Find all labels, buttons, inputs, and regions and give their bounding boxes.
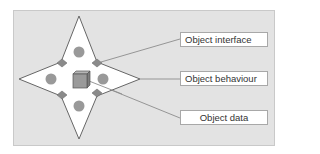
data-circle-bottom	[74, 101, 85, 112]
connector-interface	[101, 39, 180, 62]
behaviour-cube-icon	[73, 71, 90, 88]
data-circle-right	[98, 74, 109, 85]
label-object-interface: Object interface	[180, 32, 268, 47]
label-object-data: Object data	[180, 110, 268, 125]
data-circle-left	[46, 74, 57, 85]
label-object-behaviour: Object behaviour	[180, 71, 268, 86]
data-circle-top	[74, 47, 85, 58]
